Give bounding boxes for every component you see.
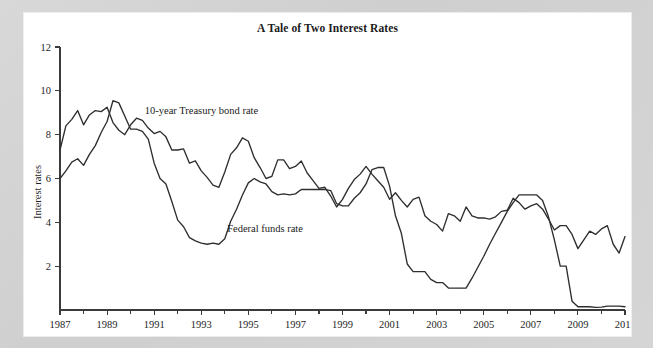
x-axis-ticks: 1987198919911993199519971999200120032005… — [50, 310, 632, 330]
x-tick-label-2003: 2003 — [426, 319, 447, 330]
figure-background: A Tale of Two Interest Rates 24681012 19… — [0, 0, 653, 348]
figure-card: A Tale of Two Interest Rates 24681012 19… — [24, 13, 631, 336]
y-tick-label-12: 12 — [41, 42, 52, 53]
y-tick-label-8: 8 — [46, 129, 51, 140]
series-annotations: 10-year Treasury bond rateFederal funds … — [145, 105, 304, 234]
y-axis-label: Interest rates — [32, 165, 43, 219]
y-axis-ticks: 24681012 — [41, 42, 61, 272]
data-series-group — [60, 101, 625, 308]
x-tick-label-2007: 2007 — [520, 319, 541, 330]
annotation-treasury-10y: 10-year Treasury bond rate — [145, 105, 259, 116]
x-tick-label-2011: 2011 — [615, 319, 631, 330]
x-tick-label-1987: 1987 — [50, 319, 71, 330]
x-tick-label-1993: 1993 — [191, 319, 212, 330]
x-tick-label-2009: 2009 — [567, 319, 588, 330]
x-tick-label-2001: 2001 — [379, 319, 400, 330]
y-tick-label-2: 2 — [46, 261, 51, 272]
y-tick-label-10: 10 — [41, 85, 52, 96]
chart-axes: 24681012 1987198919911993199519971999200… — [41, 42, 632, 330]
x-tick-label-1991: 1991 — [144, 319, 165, 330]
x-tick-label-1997: 1997 — [285, 319, 306, 330]
interest-rates-line-chart: 24681012 1987198919911993199519971999200… — [24, 13, 631, 336]
y-tick-label-6: 6 — [46, 173, 51, 184]
axis-frame — [60, 47, 625, 310]
x-tick-label-2005: 2005 — [473, 319, 494, 330]
series-line-treasury-10y — [60, 107, 625, 253]
y-tick-label-4: 4 — [46, 217, 52, 228]
series-line-federal-funds — [60, 101, 625, 308]
x-tick-label-1989: 1989 — [97, 319, 118, 330]
x-tick-label-1995: 1995 — [238, 319, 259, 330]
x-tick-label-1999: 1999 — [332, 319, 353, 330]
annotation-federal-funds: Federal funds rate — [227, 223, 303, 234]
